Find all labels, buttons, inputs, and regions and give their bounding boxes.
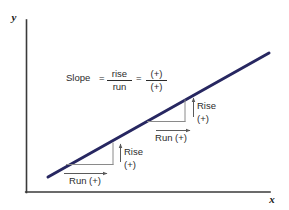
formula-numerator-rise: rise	[112, 68, 127, 79]
lower-rise-sign: (+)	[124, 159, 136, 170]
diagram-canvas: y x Rise (+) Run (+)	[0, 0, 289, 210]
slope-diagram-figure: y x Rise (+) Run (+)	[0, 0, 289, 210]
formula-equals-first: =	[99, 72, 105, 83]
lower-run-label: Run (+)	[69, 175, 101, 186]
x-axis-label: x	[268, 193, 275, 205]
formula-numerator-plus: (+)	[151, 68, 163, 79]
upper-rise-sign: (+)	[197, 113, 209, 124]
upper-rise-label: Rise	[197, 100, 216, 111]
y-axis-label: y	[10, 11, 17, 23]
lower-rise-label: Rise	[124, 146, 143, 157]
formula-denominator-run: run	[113, 81, 127, 92]
figure-background	[0, 0, 289, 210]
formula-equals-second: =	[136, 72, 142, 83]
formula-slope-word: Slope	[66, 72, 90, 83]
upper-run-label: Run (+)	[155, 132, 187, 143]
formula-denominator-plus: (+)	[151, 81, 163, 92]
